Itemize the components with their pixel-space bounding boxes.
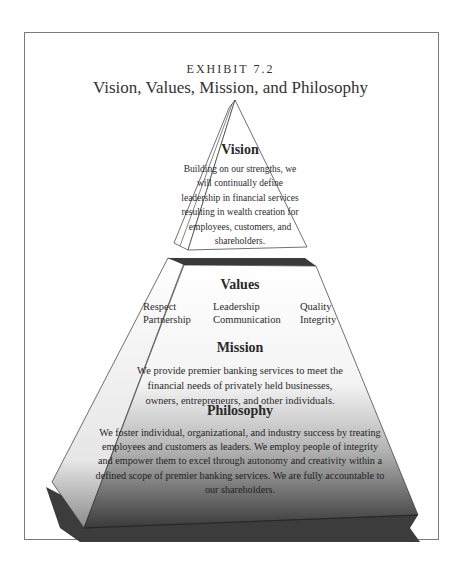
value-item: Respect [143,300,176,313]
mission-heading: Mission [180,340,300,356]
value-item: Quality [300,300,332,313]
mission-text: We provide premier banking services to m… [130,363,350,408]
value-item: Integrity [300,313,336,326]
philosophy-heading: Philosophy [170,403,310,419]
value-item: Partnership [143,313,191,326]
value-item: Leadership [213,300,260,313]
philosophy-text: We foster individual, organizational, an… [95,426,385,497]
values-heading: Values [180,277,300,293]
vision-heading: Vision [190,142,290,158]
value-item: Communication [213,313,281,326]
vision-text: Building on our strengths, we will conti… [180,162,300,248]
